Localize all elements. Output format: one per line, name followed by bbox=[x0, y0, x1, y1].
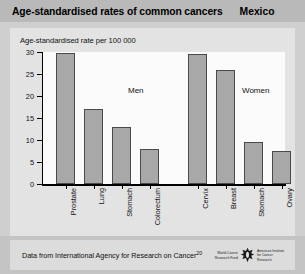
y-tick-label: 0 bbox=[30, 180, 34, 189]
x-tick-label: Stomach bbox=[257, 188, 266, 217]
bar bbox=[244, 142, 263, 184]
group-label-women: Women bbox=[242, 86, 269, 95]
bar bbox=[140, 149, 159, 184]
y-tick-label: 25 bbox=[26, 70, 34, 79]
x-tick-label: Colorectum bbox=[153, 188, 162, 225]
wcrf-aicr-logo-icon bbox=[240, 247, 255, 264]
source-reference: 20 bbox=[196, 250, 202, 256]
x-tick-label: Cervix bbox=[201, 188, 210, 209]
bar bbox=[112, 127, 131, 184]
chart-figure: Age-standardised rates of common cancers… bbox=[0, 0, 305, 274]
x-tick-label: Prostate bbox=[69, 188, 78, 215]
bar bbox=[56, 53, 75, 184]
x-axis-labels: ProstateLungStomachColorectumCervixBreas… bbox=[42, 188, 285, 236]
y-tick-label: 30 bbox=[26, 48, 34, 57]
chart-footer: Data from International Agency for Resea… bbox=[0, 236, 305, 274]
logo-right-text: American Institute for Cancer Research bbox=[257, 249, 287, 262]
bar bbox=[84, 109, 103, 184]
x-tick-label: Breast bbox=[229, 188, 238, 209]
group-label-men: Men bbox=[128, 86, 144, 95]
source-text: Data from International Agency for Resea… bbox=[22, 251, 196, 260]
bar bbox=[272, 151, 291, 184]
bar bbox=[216, 70, 235, 184]
x-tick-label: Ovary bbox=[285, 188, 294, 207]
page-title: Age-standardised rates of common cancers bbox=[12, 6, 223, 17]
y-tick-mark bbox=[37, 184, 42, 185]
chart-title-bar: Age-standardised rates of common cancers… bbox=[0, 0, 305, 22]
y-tick-label: 15 bbox=[26, 114, 34, 123]
organisation-logo: World Cancer Research Fund American Inst… bbox=[208, 247, 287, 264]
x-tick-label: Stomach bbox=[125, 188, 134, 217]
y-tick-label: 20 bbox=[26, 92, 34, 101]
bar-series bbox=[42, 52, 285, 184]
chart-panel: Age-standardised rate per 100 000 051015… bbox=[10, 28, 295, 236]
x-axis-line bbox=[42, 184, 286, 186]
bar bbox=[188, 54, 207, 184]
footer-inner: Data from International Agency for Resea… bbox=[10, 240, 295, 270]
y-tick-label: 5 bbox=[30, 158, 34, 167]
x-tick-label: Lung bbox=[97, 188, 106, 204]
y-tick-label: 10 bbox=[26, 136, 34, 145]
logo-left-text: World Cancer Research Fund bbox=[208, 251, 238, 259]
axis-subtitle-label: Age-standardised rate per 100 000 bbox=[20, 36, 136, 45]
country-label: Mexico bbox=[240, 6, 275, 17]
source-attribution: Data from International Agency for Resea… bbox=[22, 250, 202, 260]
